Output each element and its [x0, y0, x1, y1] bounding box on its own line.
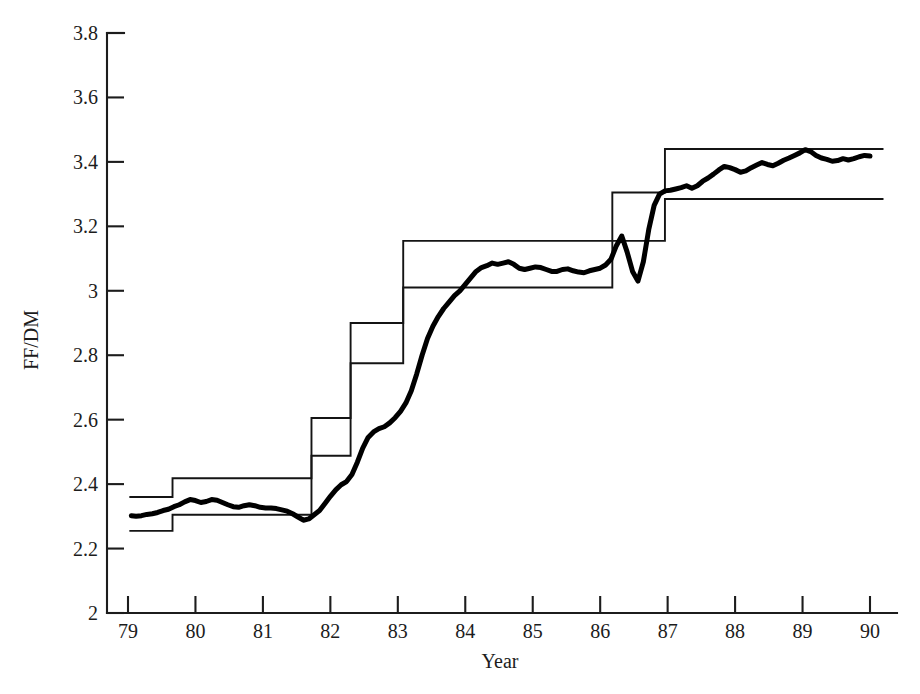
x-tick-label-89: 89 — [793, 620, 813, 642]
x-axis-ticks — [128, 596, 870, 613]
y-axis-title: FF/DM — [20, 310, 42, 370]
y-tick-label-2.4: 2.4 — [73, 473, 98, 495]
x-tick-label-80: 80 — [185, 620, 205, 642]
chart-figure: 22.22.42.62.833.23.43.63.8 7980818283848… — [0, 0, 920, 694]
x-axis-title: Year — [482, 650, 519, 672]
y-tick-label-2.2: 2.2 — [73, 538, 98, 560]
x-tick-label-85: 85 — [523, 620, 543, 642]
exchange-rate-series — [131, 150, 870, 521]
chart-plot-area: 22.22.42.62.833.23.43.63.8 7980818283848… — [0, 0, 920, 694]
x-axis-tick-labels: 798081828384858687888990 — [118, 620, 880, 642]
y-tick-label-3: 3 — [88, 280, 98, 302]
x-tick-label-82: 82 — [320, 620, 340, 642]
x-tick-label-79: 79 — [118, 620, 138, 642]
x-tick-label-90: 90 — [860, 620, 880, 642]
upper-limit-line — [129, 149, 883, 497]
lower-limit-line — [129, 199, 883, 531]
x-tick-label-88: 88 — [725, 620, 745, 642]
x-tick-label-86: 86 — [590, 620, 610, 642]
x-tick-label-84: 84 — [455, 620, 475, 642]
x-tick-label-81: 81 — [253, 620, 273, 642]
y-tick-label-2.6: 2.6 — [73, 409, 98, 431]
x-tick-label-87: 87 — [658, 620, 678, 642]
y-tick-label-2: 2 — [88, 602, 98, 624]
y-axis-tick-labels: 22.22.42.62.833.23.43.63.8 — [73, 22, 98, 624]
x-tick-label-83: 83 — [388, 620, 408, 642]
y-tick-label-3.8: 3.8 — [73, 22, 98, 44]
y-tick-label-3.2: 3.2 — [73, 215, 98, 237]
y-tick-label-3.4: 3.4 — [73, 151, 98, 173]
y-tick-label-3.6: 3.6 — [73, 86, 98, 108]
y-axis-ticks — [107, 33, 124, 613]
y-tick-label-2.8: 2.8 — [73, 344, 98, 366]
